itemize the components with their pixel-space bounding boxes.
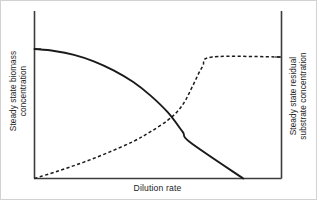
series-line-substrate — [35, 56, 282, 178]
x-axis-label: Dilution rate — [34, 183, 281, 193]
y-axis-left-label-line2: concentration — [18, 16, 28, 166]
chart-figure: Steady state biomass concentration Stead… — [0, 0, 317, 200]
series-line-biomass — [35, 49, 244, 179]
y-axis-right-label-line2: substrate concentration — [298, 16, 308, 176]
plot-area — [1, 1, 317, 200]
y-axis-left-label-line1: Steady state biomass — [8, 16, 18, 166]
y-axis-left-label: Steady state biomass concentration — [8, 16, 30, 166]
y-axis-right-label: Steady state residual substrate concentr… — [288, 16, 310, 176]
y-axis-right-label-line1: Steady state residual — [288, 16, 298, 176]
